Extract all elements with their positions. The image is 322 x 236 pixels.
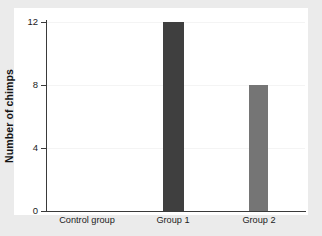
y-tick-mark-12	[41, 22, 46, 23]
y-axis-line	[46, 20, 47, 212]
x-category-label-group-1: Group 1	[156, 215, 189, 225]
y-tick-mark-8	[41, 85, 46, 86]
y-tick-label-8: 8	[33, 80, 38, 90]
y-tick-label-4: 4	[33, 143, 38, 153]
chart-figure: 12 8 4 0 Number of chimps Control group …	[0, 0, 322, 236]
y-tick-label-12: 12	[27, 17, 38, 27]
y-tick-label-0: 0	[33, 206, 38, 216]
x-category-label-control-group: Control group	[59, 215, 115, 225]
y-tick-mark-0	[41, 211, 46, 212]
bar-group-2	[249, 85, 268, 211]
bar-group-1	[163, 22, 184, 211]
x-category-label-group-2: Group 2	[242, 215, 275, 225]
y-tick-mark-4	[41, 148, 46, 149]
plot-area	[47, 22, 305, 211]
y-axis-title: Number of chimps	[3, 69, 15, 163]
x-axis-line	[46, 211, 306, 212]
